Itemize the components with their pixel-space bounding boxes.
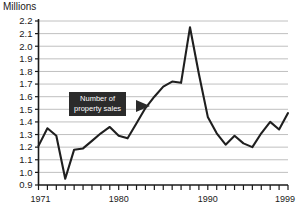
y-axis-tick-label: 1.4 [19, 116, 32, 127]
y-axis-tick-label: 0.9 [19, 179, 32, 190]
x-axis-tick-label: 1971 [30, 194, 50, 204]
x-axis-tick-label: 1980 [109, 194, 129, 204]
y-axis-tick-label: 2.0 [19, 41, 32, 52]
y-axis-tick-label: 1.9 [19, 53, 32, 64]
annotation-line-2: property sales [74, 104, 121, 114]
y-axis-tick-label: 2.2 [19, 15, 32, 26]
y-axis-tick-label: 1.5 [19, 104, 32, 115]
y-axis-tick-label: 1.8 [19, 66, 32, 77]
y-axis-tick-label: 1.2 [19, 141, 32, 152]
annotation-line-1: Number of [74, 94, 121, 104]
y-axis-tick-label: 1.7 [19, 78, 32, 89]
y-axis-tick-label: 2.1 [19, 28, 32, 39]
y-axis-tick-label: 1.3 [19, 129, 32, 140]
x-axis-tick-labels: 1971198019901999 [30, 194, 295, 204]
y-axis-tick-label: 1.1 [19, 154, 32, 165]
annotation-callout: Number of property sales [69, 92, 126, 116]
y-axis-tick-label: 1.0 [19, 167, 32, 178]
chart-container: Millions 2.22.12.01.91.81.71.61.51.41.31… [0, 0, 300, 213]
y-axis-tick-label: 1.6 [19, 91, 32, 102]
chart-plot-area: 2.22.12.01.91.81.71.61.51.41.31.21.11.00… [0, 0, 300, 213]
y-axis-tick-labels: 2.22.12.01.91.81.71.61.51.41.31.21.11.00… [19, 15, 32, 190]
x-axis-tick-label: 1990 [198, 194, 218, 204]
x-axis-tick-label: 1999 [275, 194, 295, 204]
